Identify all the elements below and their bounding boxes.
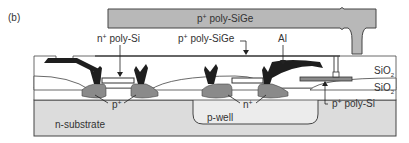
p-plus-poly-si-pad: [300, 77, 352, 81]
label-p-plus-poly-sige: p+ poly-SiGe: [178, 34, 234, 44]
label-p-plus: p+: [112, 100, 122, 110]
label-top-poly-sige: p+ poly-SiGe: [197, 14, 253, 24]
via-landing: [333, 72, 339, 77]
label-al: Al: [278, 34, 287, 44]
label-n-substrate: n-substrate: [55, 120, 105, 130]
label-sio2-upper: SiO2: [374, 66, 394, 76]
label-p-plus-poly-si: p+ poly-Si: [332, 99, 375, 109]
n-plus-poly-gate-pmos: [102, 78, 134, 83]
arrowhead-p-sige: [243, 50, 249, 55]
label-n-plus-poly-si: n+ poly-Si: [97, 34, 140, 44]
label-sio2-lower: SiO2: [374, 83, 394, 93]
label-n-plus: n+: [243, 100, 253, 110]
label-p-well: p-well: [207, 113, 233, 123]
panel-label: (b): [8, 13, 20, 23]
n-plus-poly-gate-nmos: [232, 78, 263, 83]
